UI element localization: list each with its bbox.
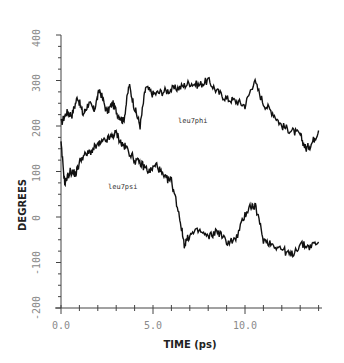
- y-ticks: [56, 35, 61, 308]
- x-tick-label-0: 0.0: [52, 320, 70, 331]
- x-axis-title: TIME (ps): [163, 339, 216, 350]
- series-label-leu7psi: leu7psi: [108, 183, 138, 191]
- x-tick-label-5: 5.0: [144, 320, 162, 331]
- y-tick-label-0: 0: [31, 215, 42, 221]
- axes: [55, 35, 322, 314]
- y-tick-label-400: 400: [31, 29, 42, 47]
- x-tick-labels: 0.0 5.0 10.0: [52, 320, 257, 331]
- y-tick-label-200: 200: [31, 119, 42, 137]
- series-line-leu7psi: [61, 130, 319, 256]
- y-tick-label-neg200: -200: [31, 296, 42, 320]
- y-tick-label-300: 300: [31, 74, 42, 92]
- y-tick-label-neg100: -100: [31, 251, 42, 275]
- x-tick-label-10: 10.0: [233, 320, 257, 331]
- y-tick-labels: 400 300 200 100 0 -100 -200: [31, 29, 42, 320]
- series-label-leu7phi: leu7phi: [178, 117, 208, 125]
- y-tick-label-100: 100: [31, 164, 42, 182]
- y-axis-title: DEGREES: [17, 179, 28, 231]
- x-ticks: [61, 305, 319, 314]
- chart-canvas: 400 300 200 100 0 -100 -200 0.0 5.0 10.0…: [0, 0, 344, 363]
